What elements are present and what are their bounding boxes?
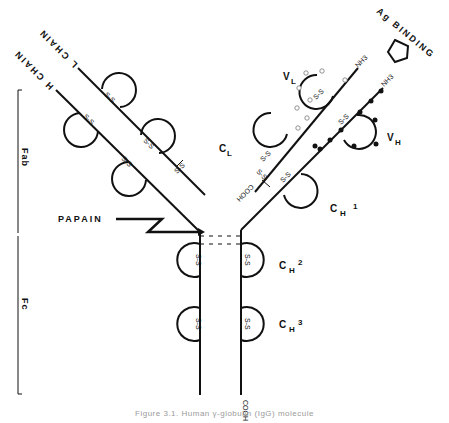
papain-arrow bbox=[116, 219, 198, 232]
ss-right-vl: S-S bbox=[312, 87, 325, 100]
ch1-label: C H 1 bbox=[330, 202, 358, 218]
svg-text:H: H bbox=[395, 138, 401, 147]
right-ch1-loop bbox=[284, 174, 318, 208]
fc-label: Fc bbox=[20, 298, 30, 311]
cl-cooh-label: COOH bbox=[235, 183, 255, 203]
h-chain-label: H CHAIN bbox=[12, 48, 55, 91]
ss-left-lh: S-S bbox=[173, 161, 186, 174]
ss-left-ch3: S-S bbox=[195, 318, 202, 330]
ch2-label: C H 2 bbox=[279, 258, 303, 275]
svg-text:H: H bbox=[340, 209, 346, 218]
svg-text:C: C bbox=[279, 319, 286, 330]
svg-text:3: 3 bbox=[298, 318, 303, 327]
svg-text:1: 1 bbox=[353, 202, 358, 211]
fc-bracket bbox=[18, 236, 22, 394]
papain-arrowhead-icon bbox=[198, 228, 205, 236]
ss-left-vh: S-S bbox=[82, 113, 95, 126]
vh-label: V H bbox=[387, 132, 401, 147]
ss-left-vl: S-S bbox=[103, 91, 116, 104]
ss-left-ch1: S-S bbox=[120, 155, 133, 168]
ss-right-ch2: S-S bbox=[244, 254, 251, 266]
svg-text:L: L bbox=[291, 77, 296, 86]
ch3-label: C H 3 bbox=[279, 318, 303, 334]
cl-label: C L bbox=[219, 143, 232, 158]
l-chain-label: L CHAIN bbox=[37, 27, 80, 70]
vh-nh3-label: NH3 bbox=[380, 73, 395, 88]
svg-text:C: C bbox=[219, 143, 226, 154]
vl-nh3-label: NH3 bbox=[354, 54, 369, 69]
papain-label: PAPAIN bbox=[58, 214, 103, 224]
left-vl-loop bbox=[102, 73, 136, 107]
ag-binding-label: Ag BINDING bbox=[375, 6, 437, 60]
ss-right-ch3: S-S bbox=[244, 318, 251, 330]
right-vh-loop bbox=[344, 115, 376, 149]
ss-left-cl: S-S bbox=[142, 137, 155, 150]
svg-text:H: H bbox=[289, 325, 295, 334]
svg-text:V: V bbox=[387, 132, 394, 143]
antigen-binding-site-icon bbox=[388, 40, 408, 62]
svg-text:H: H bbox=[289, 266, 295, 275]
ss-right-cl: S-S bbox=[259, 149, 272, 162]
ss-left-ch2: S-S bbox=[195, 254, 202, 266]
svg-text:2: 2 bbox=[298, 258, 303, 267]
svg-text:C: C bbox=[330, 203, 337, 214]
antibody-diagram: L CHAIN H CHAIN Ag BINDING Fab Fc PAPAIN… bbox=[0, 0, 449, 423]
svg-text:V: V bbox=[283, 71, 290, 82]
figure-caption: Figure 3.1. Human γ-globulin (IgG) molec… bbox=[0, 409, 449, 418]
right-cl-loop bbox=[253, 113, 287, 147]
svg-text:C: C bbox=[279, 260, 286, 271]
fab-label: Fab bbox=[20, 148, 30, 167]
vl-label: V L bbox=[283, 71, 296, 86]
svg-text:L: L bbox=[227, 149, 232, 158]
